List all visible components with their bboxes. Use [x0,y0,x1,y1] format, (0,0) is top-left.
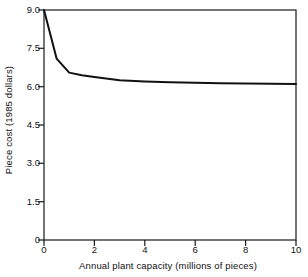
x-tick-label: 6 [180,245,210,255]
x-tick-label: 2 [79,245,109,255]
x-tick-label: 8 [231,245,261,255]
x-axis-title: Annual plant capacity (millions of piece… [34,260,302,271]
y-tick-label: 0 [14,235,40,245]
x-axis-tick-labels: 0246810 [0,245,308,257]
plot-area [0,0,308,277]
y-tick-label: 1.5 [14,197,40,207]
x-tick-label: 0 [29,245,59,255]
y-tick-label: 9.0 [14,5,40,15]
chart-figure: 01.53.04.56.07.59.0 0246810 Piece cost (… [0,0,308,277]
x-tick-label: 10 [281,245,308,255]
x-tick-label: 4 [130,245,160,255]
y-axis-tick-labels: 01.53.04.56.07.59.0 [12,0,40,277]
y-tick-label: 4.5 [14,120,40,130]
y-axis-title: Piece cost (1985 dollars) [2,0,16,240]
y-tick-label: 7.5 [14,43,40,53]
y-tick-label: 3.0 [14,158,40,168]
plot-frame [44,10,296,240]
y-tick-label: 6.0 [14,82,40,92]
